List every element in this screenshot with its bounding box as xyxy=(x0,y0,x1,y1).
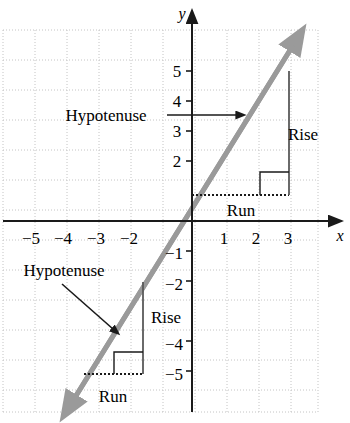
x-tick-2: 2 xyxy=(252,230,261,247)
x-tick-1: 1 xyxy=(220,230,229,247)
rise-label-upper: Rise xyxy=(288,126,318,143)
slope-figure: y x −5 −4 −3 −2 1 2 3 5 4 3 2 −1 −2 −4 −… xyxy=(0,0,350,423)
y-tick-3: 3 xyxy=(173,123,182,140)
rise-label-lower: Rise xyxy=(151,309,181,326)
hypotenuse-label-lower: Hypotenuse xyxy=(23,262,104,279)
x-axis-label: x xyxy=(336,228,343,244)
x-tick-minus5: −5 xyxy=(22,230,40,247)
x-tick-minus4: −4 xyxy=(54,230,72,247)
y-tick-minus4: −4 xyxy=(165,336,183,353)
lower-triangle xyxy=(84,282,143,374)
x-tick-minus2: −2 xyxy=(120,230,138,247)
y-tick-4: 4 xyxy=(173,93,182,110)
x-tick-3: 3 xyxy=(284,230,293,247)
y-tick-minus1: −1 xyxy=(165,245,183,262)
run-label-lower: Run xyxy=(99,388,127,405)
y-tick-5: 5 xyxy=(173,63,182,80)
y-tick-2: 2 xyxy=(173,153,182,170)
lower-right-angle-marker xyxy=(114,352,143,374)
y-tick-minus2: −2 xyxy=(165,276,183,293)
y-axis-label: y xyxy=(178,6,185,22)
run-label-upper: Run xyxy=(227,202,255,219)
upper-right-angle-marker xyxy=(260,172,289,195)
y-tick-minus5: −5 xyxy=(165,366,183,383)
x-tick-minus3: −3 xyxy=(87,230,105,247)
hypotenuse-label-upper: Hypotenuse xyxy=(65,107,146,124)
lower-hypotenuse-arrow xyxy=(62,284,113,329)
